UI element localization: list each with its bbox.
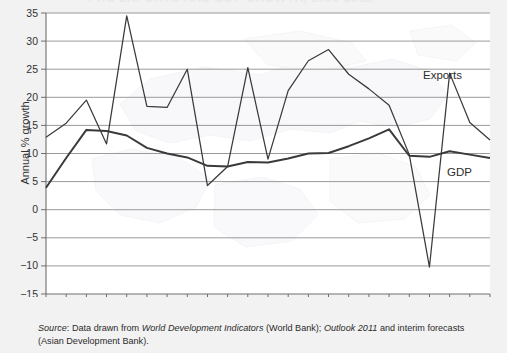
source-text-1: Data drawn from bbox=[72, 323, 142, 333]
clipped-title-strip: PRC EXPORTS AND GDP GROWTH, 1990-2012 bbox=[0, 0, 507, 9]
figure-container: PRC EXPORTS AND GDP GROWTH, 1990-2012 bbox=[0, 0, 507, 353]
y-tick-label: 35 bbox=[26, 9, 38, 19]
source-italic-1: World Development Indicators bbox=[142, 323, 264, 333]
source-prefix: Source bbox=[38, 323, 67, 333]
chart-svg: 35 30 25 20 15 10 5 0 −5 −10 −15 bbox=[0, 9, 507, 297]
series-label-gdp: GDP bbox=[447, 166, 472, 178]
y-tick-label: −5 bbox=[26, 231, 38, 243]
y-tick-label: −10 bbox=[20, 259, 38, 271]
y-tick-label: 30 bbox=[26, 35, 38, 47]
y-tick-label: 5 bbox=[32, 175, 38, 187]
y-axis-title: Annual % growth bbox=[19, 78, 31, 208]
source-text-2: (World Bank); bbox=[263, 323, 323, 333]
series-label-exports: Exports bbox=[423, 69, 462, 81]
y-tick-label: −15 bbox=[20, 288, 38, 297]
source-italic-2: Outlook 2011 bbox=[324, 323, 377, 333]
y-tick-marks bbox=[41, 13, 46, 294]
chart-title: PRC EXPORTS AND GDP GROWTH, 1990-2012 bbox=[88, 0, 373, 5]
plot-area: 35 30 25 20 15 10 5 0 −5 −10 −15 bbox=[0, 9, 507, 297]
y-tick-label: 0 bbox=[32, 203, 38, 215]
y-tick-label: 25 bbox=[26, 63, 38, 75]
source-note: Source: Data drawn from World Developmen… bbox=[38, 322, 478, 348]
